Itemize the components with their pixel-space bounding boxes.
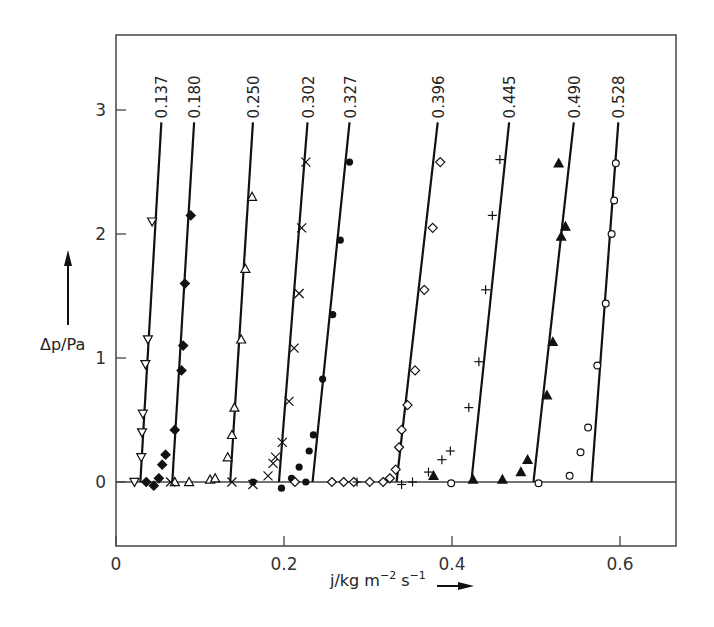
marker-cross (290, 344, 299, 353)
marker-circle-filled (310, 431, 317, 438)
chart: 00.20.40.6 0123 0.1370.1800.2500.3020.32… (0, 0, 714, 627)
marker-plus (474, 357, 483, 366)
y-tick-label: 1 (95, 348, 106, 368)
marker-plus (397, 480, 406, 489)
marker-diamond-open (436, 158, 445, 167)
fit-line-0.302 (279, 122, 308, 482)
y-arrow-head (64, 250, 72, 266)
marker-cross (301, 158, 310, 167)
marker-circle-filled (337, 237, 344, 244)
x-tick-label: 0.6 (606, 554, 633, 574)
marker-diamond-open (365, 478, 374, 487)
marker-plus (408, 478, 417, 487)
marker-diamond-open (428, 223, 437, 232)
marker-triangle-down (141, 361, 150, 369)
marker-circle-open (585, 424, 592, 431)
data-points (130, 155, 619, 492)
marker-circle-open (566, 472, 573, 479)
marker-circle-open (577, 449, 584, 456)
fit-line-0.137 (140, 122, 161, 482)
marker-diamond-open (327, 478, 336, 487)
marker-triangle-up-filled (498, 475, 507, 483)
marker-circle-filled (278, 485, 285, 492)
marker-diamond-open (420, 285, 429, 294)
marker-plus (464, 403, 473, 412)
y-tick-label: 2 (95, 224, 106, 244)
marker-plus (481, 285, 490, 294)
marker-triangle-up-filled (469, 475, 478, 483)
marker-plus (437, 455, 446, 464)
marker-circle-open (611, 197, 618, 204)
marker-triangle-up (230, 403, 239, 411)
series-label-0.137: 0.137 (153, 75, 171, 118)
fit-line-0.490 (533, 122, 573, 482)
marker-circle-filled (329, 311, 336, 318)
series-label-0.180: 0.180 (186, 75, 204, 118)
y-axis-title-group: Δp/Pa (40, 250, 85, 354)
marker-circle-filled (296, 464, 303, 471)
marker-circle-filled (249, 478, 256, 485)
marker-diamond-filled (180, 279, 189, 288)
marker-triangle-up-filled (516, 468, 525, 476)
y-axis-title: Δp/Pa (40, 335, 85, 354)
series-label-0.302: 0.302 (300, 75, 318, 118)
y-tick-label: 3 (95, 100, 106, 120)
marker-triangle-up-filled (557, 232, 566, 240)
series-label-0.250: 0.250 (245, 75, 263, 118)
marker-diamond-filled (170, 425, 179, 434)
fit-line-0.445 (471, 122, 509, 482)
marker-circle-open (608, 231, 615, 238)
marker-triangle-down (138, 410, 147, 418)
marker-diamond-open (397, 425, 406, 434)
marker-diamond-open (339, 478, 348, 487)
marker-diamond-open (395, 443, 404, 452)
y-tick-label: 0 (95, 472, 106, 492)
x-tick-label: 0 (111, 554, 122, 574)
marker-plus (446, 447, 455, 456)
marker-plus (495, 155, 504, 164)
series-label-0.490: 0.490 (566, 75, 584, 118)
marker-triangle-down (138, 429, 147, 437)
x-axis-title: j/kg m−2 s−1 (329, 569, 426, 590)
marker-triangle-up (241, 264, 250, 272)
x-tick-label: 0.4 (438, 554, 465, 574)
fit-line-0.327 (313, 122, 350, 482)
marker-triangle-up (227, 430, 236, 438)
series-label-0.445: 0.445 (501, 75, 519, 118)
marker-circle-open (448, 480, 455, 487)
series-label-0.528: 0.528 (610, 75, 628, 118)
marker-circle-open (612, 160, 619, 167)
marker-diamond-filled (158, 460, 167, 469)
marker-diamond-open (411, 366, 420, 375)
marker-circle-filled (302, 478, 309, 485)
marker-circle-open (602, 300, 609, 307)
marker-circle-open (535, 480, 542, 487)
marker-cross (264, 471, 273, 480)
marker-triangle-up (237, 335, 246, 343)
marker-diamond-filled (161, 450, 170, 459)
x-tick-label: 0.2 (270, 554, 297, 574)
marker-triangle-up-filled (554, 159, 563, 167)
series-label-0.327: 0.327 (342, 75, 360, 118)
series-labels: 0.1370.1800.2500.3020.3270.3960.4450.490… (153, 75, 628, 118)
x-axis: 00.20.40.6 (111, 536, 634, 574)
marker-cross (295, 289, 304, 298)
marker-circle-filled (319, 375, 326, 382)
marker-circle-filled (306, 447, 313, 454)
marker-circle-open (594, 362, 601, 369)
marker-triangle-down (143, 336, 152, 344)
marker-triangle-up-filled (523, 455, 532, 463)
x-arrow-head (458, 582, 474, 590)
marker-triangle-down (137, 454, 146, 462)
series-label-0.396: 0.396 (430, 75, 448, 118)
marker-plus (488, 211, 497, 220)
marker-circle-filled (346, 158, 353, 165)
y-axis: 0123 (95, 100, 126, 492)
fit-lines (140, 122, 618, 482)
fit-line-0.250 (230, 122, 253, 482)
